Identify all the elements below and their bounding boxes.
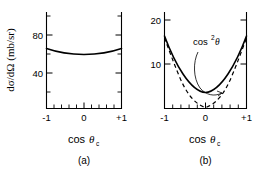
panel-b-xtick-zero: 0	[203, 112, 208, 123]
panel-b-annotation-arrowhead	[217, 91, 222, 96]
panel-a-label: (a)	[78, 155, 90, 166]
panel-b-label: (b)	[199, 155, 211, 166]
panel-a-xlabel-theta: θ	[89, 133, 95, 145]
panel-a-x-ticks	[47, 103, 122, 109]
panel-b-annotation-leader	[194, 52, 222, 95]
panel-a-xtick-zero: 0	[81, 112, 86, 123]
panel-a-curve-solid	[47, 49, 122, 55]
panel-b-xlabel-cos: cos	[189, 133, 207, 145]
panel-b-axis-frame	[165, 12, 247, 109]
panel-a-ytick-40: 40	[32, 68, 43, 79]
panel-b-xtick-minus1: -1	[160, 112, 168, 123]
panel-a-ytick-80: 80	[32, 30, 43, 41]
figure-container: 80 40 -1 0 +1 dσ/dΩ (mb/sr) cos θ c (a)	[0, 0, 273, 172]
panel-a-xtick-plus1: +1	[116, 112, 127, 123]
panel-b-curve-dashed	[165, 38, 247, 108]
panel-b: 20 10 -1 0 +1 cos 2 θ cos θ c	[136, 0, 273, 172]
panel-a-xtick-minus1: -1	[42, 112, 50, 123]
panel-a-xlabel: cos θ c	[68, 133, 100, 147]
panel-b-ytick-20: 20	[150, 15, 161, 26]
panel-a-plot: 80 40 -1 0 +1 dσ/dΩ (mb/sr) cos θ c (a)	[0, 0, 137, 172]
panel-a-axis-frame	[47, 12, 122, 109]
panel-a-xlabel-sub: c	[96, 140, 100, 147]
panel-a-xlabel-cos: cos	[68, 133, 86, 145]
panel-b-plot: 20 10 -1 0 +1 cos 2 θ cos θ c	[136, 0, 273, 172]
panel-b-xlabel-sub: c	[217, 140, 221, 147]
panel-b-xlabel: cos θ c	[189, 133, 221, 147]
panel-b-annotation-cos: cos	[193, 36, 208, 47]
panel-b-xtick-plus1: +1	[241, 112, 252, 123]
panel-b-annotation-theta: θ	[215, 37, 220, 47]
panel-b-ytick-10: 10	[150, 59, 161, 70]
panel-b-xlabel-theta: θ	[210, 133, 216, 145]
panel-b-annotation: cos 2 θ	[193, 34, 220, 47]
panel-a-ylabel: dσ/dΩ (mb/sr)	[4, 28, 17, 92]
panel-b-x-ticks	[165, 103, 247, 109]
panel-a: 80 40 -1 0 +1 dσ/dΩ (mb/sr) cos θ c (a)	[0, 0, 137, 172]
